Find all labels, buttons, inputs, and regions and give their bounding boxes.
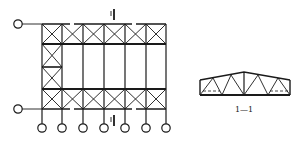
support-circle-icon [14, 105, 22, 113]
roof-plan [22, 24, 166, 127]
dashed-segments [70, 24, 136, 109]
support-circle-icon [100, 124, 108, 132]
support-circle-icon [121, 124, 129, 132]
support-circle-icon [79, 124, 87, 132]
support-circle-icon [14, 20, 22, 28]
structural-diagram: 1—1 [0, 0, 303, 144]
truss-section [200, 72, 290, 95]
support-circle-icon [142, 124, 150, 132]
supports [14, 20, 170, 132]
support-circle-icon [162, 124, 170, 132]
support-circle-icon [38, 124, 46, 132]
section-label: 1—1 [235, 105, 253, 114]
support-circle-icon [58, 124, 66, 132]
